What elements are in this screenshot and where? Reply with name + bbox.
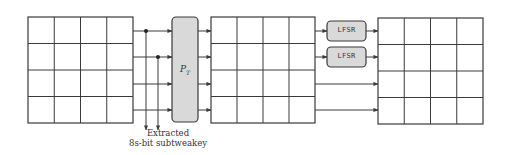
lfsr-label-0: LFSR xyxy=(327,26,366,34)
subtweakey-caption: Extracted 8s-bit subtweakey xyxy=(118,128,218,148)
caption-line-1: Extracted xyxy=(118,128,218,138)
permutation-label: PT xyxy=(172,64,198,76)
caption-line-2: 8s-bit subtweakey xyxy=(118,138,218,148)
tap-dot-1 xyxy=(156,55,160,59)
lfsr-label-1: LFSR xyxy=(327,52,366,60)
wires xyxy=(133,29,378,130)
tap-dot-0 xyxy=(144,29,148,33)
state-grid-permuted xyxy=(211,17,315,123)
tweakey-schedule-diagram xyxy=(0,0,511,155)
state-grids xyxy=(28,17,483,124)
state-grid-input xyxy=(28,17,133,123)
state-grid-output xyxy=(378,18,483,124)
